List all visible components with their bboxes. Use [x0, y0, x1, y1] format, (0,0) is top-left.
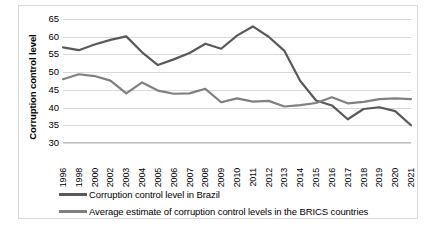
legend-label-brics: Average estimate of corruption control l… [89, 206, 368, 217]
x-axis-labels: 1996199820002002200320042005200620072008… [63, 145, 411, 187]
y-tick-label: 40 [37, 102, 59, 113]
x-tick-label: 2015 [311, 168, 321, 187]
legend-swatch-brics [59, 210, 87, 213]
y-tick-label: 50 [37, 66, 59, 77]
x-tick-label: 2006 [169, 168, 179, 187]
legend-swatch-brazil [59, 193, 87, 196]
x-tick-label: 2004 [137, 168, 147, 187]
legend-item-brics[interactable]: Average estimate of corruption control l… [59, 203, 411, 220]
x-tick-label: 2018 [359, 168, 369, 187]
legend-item-brazil[interactable]: Corruption control level in Brazil [59, 186, 411, 203]
x-tick-label: 1998 [74, 168, 84, 187]
x-tick-label: 2019 [374, 168, 384, 187]
y-tick-label: 55 [37, 48, 59, 59]
y-tick-label: 60 [37, 31, 59, 42]
y-tick-label: 45 [37, 84, 59, 95]
series-line-brics [63, 74, 411, 106]
series-line-brazil [63, 26, 411, 125]
x-tick-label: 2017 [343, 168, 353, 187]
series-lines [63, 19, 411, 143]
x-tick-label: 2011 [248, 168, 258, 187]
chart-legend: Corruption control level in Brazil Avera… [59, 186, 411, 220]
x-tick-label: 1996 [58, 168, 68, 187]
x-tick-label: 2021 [406, 168, 416, 187]
x-tick-label: 2002 [105, 168, 115, 187]
x-tick-label: 2010 [232, 168, 242, 187]
x-tick-label: 2016 [327, 168, 337, 187]
plot-wrapper: 6560555045403530 [63, 19, 411, 143]
x-tick-label: 2005 [153, 168, 163, 187]
x-tick-label: 2014 [295, 168, 305, 187]
x-tick-label: 2003 [121, 168, 131, 187]
gridline [63, 143, 411, 144]
y-tick-label: 30 [37, 137, 59, 148]
x-tick-label: 2013 [279, 168, 289, 187]
x-tick-label: 2008 [200, 168, 210, 187]
legend-label-brazil: Corruption control level in Brazil [89, 189, 220, 200]
plot-area: 6560555045403530 [63, 19, 411, 143]
x-tick-label: 2007 [185, 168, 195, 187]
x-tick-label: 2000 [90, 168, 100, 187]
y-tick-label: 65 [37, 13, 59, 24]
y-tick-label: 35 [37, 119, 59, 130]
x-tick-label: 2012 [264, 168, 274, 187]
x-tick-label: 2020 [390, 168, 400, 187]
x-tick-label: 2009 [216, 168, 226, 187]
chart-container: Corruption control level 656055504540353… [18, 5, 418, 219]
